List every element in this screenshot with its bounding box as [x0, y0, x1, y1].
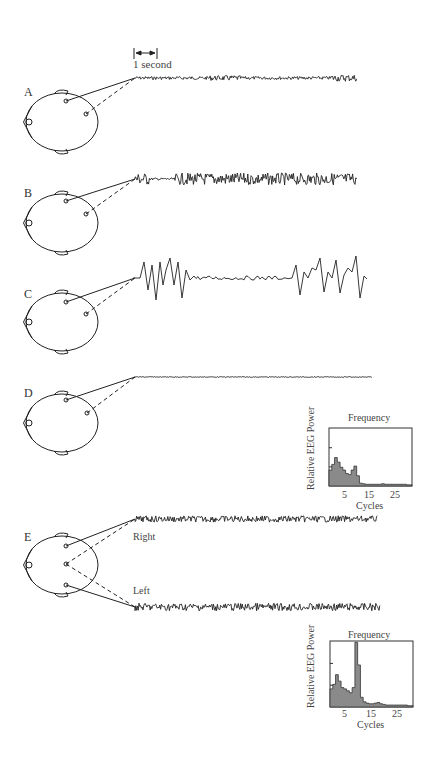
eeg-trace-d [135, 377, 372, 378]
eeg-trace-b [135, 173, 357, 185]
hist-d-tick-5: 5 [342, 489, 347, 500]
panel-label-a: A [24, 85, 33, 100]
head-diagram-a [24, 78, 136, 154]
eeg-trace-e-right [135, 516, 377, 522]
hist-e-tick-15: 15 [366, 708, 376, 719]
figure-canvas [0, 0, 434, 758]
hist-e-tick-25: 25 [392, 708, 402, 719]
frequency-histogram-e [330, 641, 413, 707]
head-diagram-c [24, 278, 136, 354]
frequency-histogram-d [329, 428, 412, 486]
hist-e-title: Frequency [348, 629, 390, 640]
panel-label-e: E [24, 530, 31, 545]
hist-e-ylabel: Relative EEG Power [305, 642, 316, 708]
hist-e-tick-5: 5 [342, 708, 347, 719]
eeg-trace-e-left [135, 603, 380, 611]
eeg-trace-c [133, 256, 367, 300]
channel-label-left: Left [133, 585, 150, 596]
scale-bar-label: 1 second [133, 58, 172, 70]
panel-label-d: D [24, 386, 33, 401]
hist-d-xlabel: Cycles [356, 500, 383, 511]
panel-label-b: B [24, 186, 32, 201]
head-diagram-b [24, 179, 136, 255]
hist-e-xlabel: Cycles [357, 719, 384, 730]
head-diagram-d [24, 377, 136, 455]
eeg-trace-a [135, 75, 357, 81]
hist-d-tick-25: 25 [390, 489, 400, 500]
panel-label-c: C [24, 287, 32, 302]
head-diagram-e [24, 519, 136, 607]
channel-label-right: Right [133, 531, 155, 542]
hist-d-title: Frequency [348, 412, 390, 423]
hist-d-ylabel: Relative EEG Power [305, 424, 316, 490]
hist-d-tick-15: 15 [364, 489, 374, 500]
